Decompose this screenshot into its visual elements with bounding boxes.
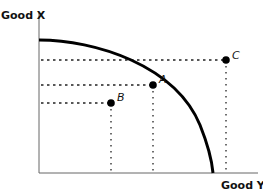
point-a-label: A xyxy=(158,73,167,86)
point-c-label: C xyxy=(232,49,240,62)
point-b-label: B xyxy=(117,91,125,104)
ppf-chart: A B C Good X Good Y xyxy=(0,0,263,193)
point-a xyxy=(149,81,157,89)
point-c xyxy=(222,56,230,64)
point-b xyxy=(107,99,115,107)
x-axis-label: Good Y xyxy=(221,179,263,192)
y-axis-label: Good X xyxy=(1,9,46,22)
